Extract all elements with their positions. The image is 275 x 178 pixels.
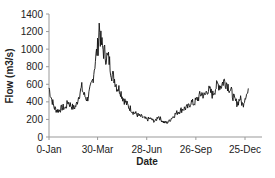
flow-series	[49, 23, 248, 123]
y-tick-label: 1200	[21, 26, 44, 37]
y-axis-label: Flow (m3/s)	[4, 48, 15, 103]
x-axis-label: Date	[136, 156, 158, 167]
x-tick-label: 25-Dec	[229, 144, 261, 155]
y-tick-label: 400	[26, 96, 43, 107]
flow-line	[49, 23, 248, 123]
x-tick-label: 30-Mar	[82, 144, 114, 155]
x-tick-label: 0-Jan	[36, 144, 61, 155]
y-tick-label: 200	[26, 114, 43, 125]
x-axis-ticks: 0-Jan30-Mar28-Jun26-Sep25-Dec	[36, 137, 261, 155]
y-tick-label: 600	[26, 79, 43, 90]
y-tick-label: 1000	[21, 44, 44, 55]
flow-line-chart: 0200400600800100012001400 0-Jan30-Mar28-…	[0, 0, 275, 178]
y-tick-label: 0	[37, 132, 43, 143]
x-tick-label: 28-Jun	[131, 144, 162, 155]
y-tick-label: 800	[26, 61, 43, 72]
y-tick-label: 1400	[21, 9, 44, 20]
x-tick-label: 26-Sep	[180, 144, 213, 155]
y-axis-ticks: 0200400600800100012001400	[21, 9, 49, 143]
